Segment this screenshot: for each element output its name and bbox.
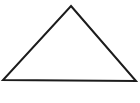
triangle-drawing [0, 0, 140, 103]
canvas-background [0, 0, 140, 103]
figure-canvas [0, 0, 140, 103]
